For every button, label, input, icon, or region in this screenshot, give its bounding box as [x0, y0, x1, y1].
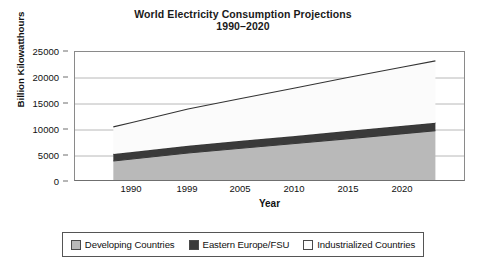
- legend-swatch-icon: [71, 240, 81, 250]
- x-axis-title: Year: [74, 198, 465, 209]
- legend-item-label: Eastern Europe/FSU: [203, 239, 290, 250]
- stacked-area-svg: [75, 52, 465, 181]
- x-tick-label: 2010: [283, 183, 304, 194]
- plot-area: [74, 51, 465, 181]
- x-axis: 199019992005201020152020: [0, 183, 486, 197]
- x-tick-label: 2020: [391, 183, 412, 194]
- y-tick-label: 15000: [33, 98, 59, 109]
- y-tick-mark: [63, 51, 68, 52]
- legend-item[interactable]: Developing Countries: [71, 239, 175, 250]
- y-tick-label: 10000: [33, 124, 59, 135]
- x-tick-label: 2005: [229, 183, 250, 194]
- area-series-group: [113, 61, 435, 181]
- legend-item-label: Developing Countries: [85, 239, 175, 250]
- y-tick-label: 20000: [33, 72, 59, 83]
- legend-item-label: Industrialized Countries: [317, 239, 415, 250]
- legend-item[interactable]: Eastern Europe/FSU: [189, 239, 290, 250]
- chart-page: World Electricity Consumption Projection…: [0, 0, 486, 272]
- y-tick-label: 5000: [38, 150, 59, 161]
- legend-swatch-icon: [303, 240, 313, 250]
- y-tick-mark: [63, 77, 68, 78]
- y-tick-label: 25000: [33, 46, 59, 57]
- y-tick-mark: [63, 103, 68, 104]
- chart-subtitle: 1990–2020: [0, 20, 486, 32]
- chart-title-block: World Electricity Consumption Projection…: [0, 8, 486, 32]
- x-tick-label: 1999: [176, 183, 197, 194]
- chart-legend: Developing CountriesEastern Europe/FSUIn…: [62, 232, 424, 257]
- y-tick-mark: [63, 181, 68, 182]
- x-tick-label: 1990: [120, 183, 141, 194]
- y-tick-mark: [63, 129, 68, 130]
- y-axis: 0500010000150002000025000: [0, 51, 68, 181]
- y-tick-mark: [63, 155, 68, 156]
- page-title: World Electricity Consumption Projection…: [0, 8, 486, 20]
- legend-swatch-icon: [189, 240, 199, 250]
- x-tick-label: 2015: [337, 183, 358, 194]
- legend-item[interactable]: Industrialized Countries: [303, 239, 415, 250]
